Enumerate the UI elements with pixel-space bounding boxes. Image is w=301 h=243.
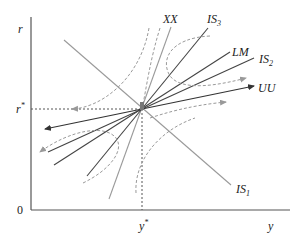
trajectory-lower-right <box>136 118 195 193</box>
lm-label: LM <box>231 45 250 59</box>
trajectory-upper-right <box>166 36 246 86</box>
equilibrium-marker <box>140 102 144 110</box>
trajectory-upper-left <box>72 28 149 109</box>
trajectories <box>40 28 246 193</box>
xx-curve <box>109 27 171 199</box>
is2-curve <box>48 58 254 152</box>
is3-label: IS3 <box>206 12 221 28</box>
phase-diagram: r r* 0 y* y XX IS3 LM IS2 UU IS1 <box>0 0 301 243</box>
trajectory-mid-right <box>150 102 226 118</box>
trajectory-lower-left <box>40 130 119 183</box>
y-star-label: y* <box>138 218 148 233</box>
r-star-label: r* <box>16 101 25 116</box>
is1-curve <box>64 40 231 185</box>
y-axis-label: r <box>18 22 23 36</box>
is2-label: IS2 <box>258 52 273 68</box>
uu-label: UU <box>258 81 277 95</box>
origin-label: 0 <box>17 203 23 217</box>
axes <box>31 17 290 210</box>
x-axis-label: y <box>267 219 274 233</box>
is1-label: IS1 <box>235 182 250 198</box>
xx-label: XX <box>162 12 178 26</box>
